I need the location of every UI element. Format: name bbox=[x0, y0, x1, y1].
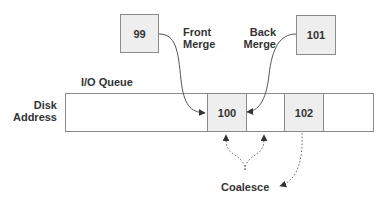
back-merge-line2: Merge bbox=[240, 38, 276, 50]
front-merge-label: Front Merge bbox=[183, 26, 215, 50]
io-queue: 100 102 bbox=[65, 93, 374, 132]
coalesce-arrow-102-icon bbox=[280, 133, 302, 186]
coalesce-label: Coalesce bbox=[221, 181, 269, 193]
queue-cell-label: 102 bbox=[295, 107, 313, 119]
queue-cell-gap bbox=[246, 94, 284, 131]
coalesce-arrow-left-icon bbox=[226, 135, 245, 170]
front-merge-line1: Front bbox=[183, 26, 215, 38]
queue-cell-100: 100 bbox=[207, 94, 246, 131]
request-box-99: 99 bbox=[120, 14, 159, 53]
queue-title: I/O Queue bbox=[81, 76, 133, 88]
queue-cell-empty-right bbox=[323, 94, 373, 131]
disk-label-line2: Address bbox=[10, 111, 57, 123]
request-label-101: 101 bbox=[307, 29, 325, 41]
back-merge-label: Back Merge bbox=[240, 26, 276, 50]
front-merge-line2: Merge bbox=[183, 38, 215, 50]
back-merge-line1: Back bbox=[240, 26, 276, 38]
disk-label-line1: Disk bbox=[10, 99, 57, 111]
request-box-101: 101 bbox=[296, 15, 336, 55]
disk-address-label: Disk Address bbox=[10, 99, 57, 123]
queue-cell-label: 100 bbox=[218, 107, 236, 119]
coalesce-arrow-right-icon bbox=[245, 135, 264, 170]
queue-cell-102: 102 bbox=[284, 94, 323, 131]
queue-cell-empty-left bbox=[66, 94, 207, 131]
request-label-99: 99 bbox=[133, 28, 145, 40]
